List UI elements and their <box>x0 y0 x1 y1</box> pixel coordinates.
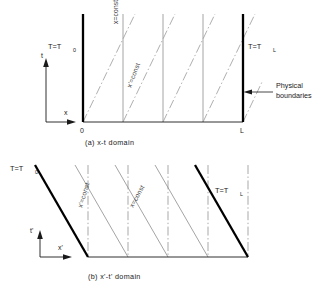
panel-b-left-temp-subscript: 0 <box>35 169 38 175</box>
panel-a-vertical-family-label: x=const <box>112 0 119 24</box>
panel-a-left-temp-subscript: 0 <box>73 47 76 53</box>
panel-a-left-temp-text: T=T <box>48 42 62 51</box>
annotation-line-2: boundaries <box>276 91 312 100</box>
panel-a-right-temp-text: T=T <box>248 42 262 51</box>
panel-b-left-temp-text: T=T <box>10 164 24 173</box>
panel-a-caption: (a) x-t domain <box>85 138 134 147</box>
panel-b-t-axis-label: t' <box>30 227 33 234</box>
panel-a-origin-tick: 0 <box>80 127 84 134</box>
panel-a-right-temp-subscript: L <box>273 47 276 53</box>
annotation-line-1: Physical <box>276 81 303 90</box>
panel-a-t-axis-label: t <box>41 52 43 59</box>
panel-b-caption: (b) x'-t' domain <box>88 272 141 281</box>
panel-b-right-temp-text: T=T <box>215 186 229 195</box>
panel-b-right-temp-subscript: L <box>240 191 243 197</box>
figure-svg: t x 0 L T=T 0 T=T L x=const x'=const Phy… <box>0 0 323 291</box>
panel-a-x-axis-label: x <box>64 109 68 116</box>
panel-a-right-tick: L <box>240 127 244 134</box>
panel-b-x-axis-label: x' <box>58 244 63 251</box>
figure-root: t x 0 L T=T 0 T=T L x=const x'=const Phy… <box>0 0 323 291</box>
